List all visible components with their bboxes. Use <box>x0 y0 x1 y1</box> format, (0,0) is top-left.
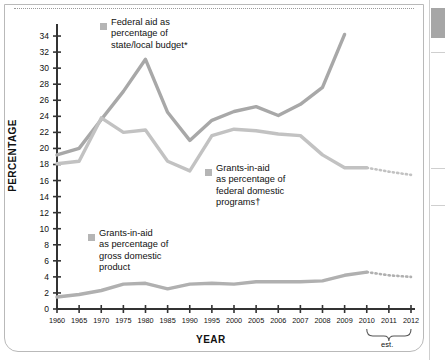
screenshot-root: PERCENTAGE 34323028262422201816141210864… <box>0 0 446 360</box>
y-tick-label: 20 <box>33 143 49 153</box>
series-line <box>57 272 367 297</box>
y-axis-title: PERCENTAGE <box>7 119 18 192</box>
chart-plot-area: PERCENTAGE 34323028262422201816141210864… <box>0 0 446 360</box>
legend-federal-aid: Federal aid as percentage of state/local… <box>100 17 188 51</box>
y-tick-label: 32 <box>33 47 49 57</box>
legend-label-federal-aid: Federal aid as percentage of state/local… <box>111 17 188 51</box>
y-tick-label: 34 <box>33 31 49 41</box>
y-tick-label: 6 <box>33 256 49 266</box>
y-tick-label: 4 <box>33 272 49 282</box>
legend-swatch-grants-federal-programs <box>205 169 212 176</box>
y-tick-label: 28 <box>33 79 49 89</box>
legend-label-grants-gdp: Grants-in-aid as percentage of gross dom… <box>99 228 168 274</box>
y-tick-label: 12 <box>33 208 49 218</box>
y-tick-label: 30 <box>33 63 49 73</box>
legend-grants-federal-programs: Grants-in-aid as percentage of federal d… <box>205 163 285 209</box>
y-tick-label: 16 <box>33 176 49 186</box>
series-line-estimated <box>367 272 411 277</box>
y-tick-label: 0 <box>33 304 49 314</box>
y-tick-label: 22 <box>33 127 49 137</box>
legend-grants-gdp: Grants-in-aid as percentage of gross dom… <box>88 228 168 274</box>
y-tick-label: 10 <box>33 224 49 234</box>
estimate-label: est. <box>381 340 393 349</box>
x-tick-label: 2012 <box>398 316 424 325</box>
y-tick-label: 2 <box>33 288 49 298</box>
y-tick-label: 18 <box>33 159 49 169</box>
legend-swatch-grants-gdp <box>88 234 95 241</box>
legend-label-grants-federal-programs: Grants-in-aid as percentage of federal d… <box>216 163 285 209</box>
y-tick-label: 8 <box>33 240 49 250</box>
x-axis-title: YEAR <box>196 334 226 345</box>
y-tick-label: 24 <box>33 111 49 121</box>
y-tick-label: 14 <box>33 192 49 202</box>
y-tick-label: 26 <box>33 95 49 105</box>
legend-swatch-federal-aid <box>100 23 107 30</box>
series-line-estimated <box>367 168 411 175</box>
